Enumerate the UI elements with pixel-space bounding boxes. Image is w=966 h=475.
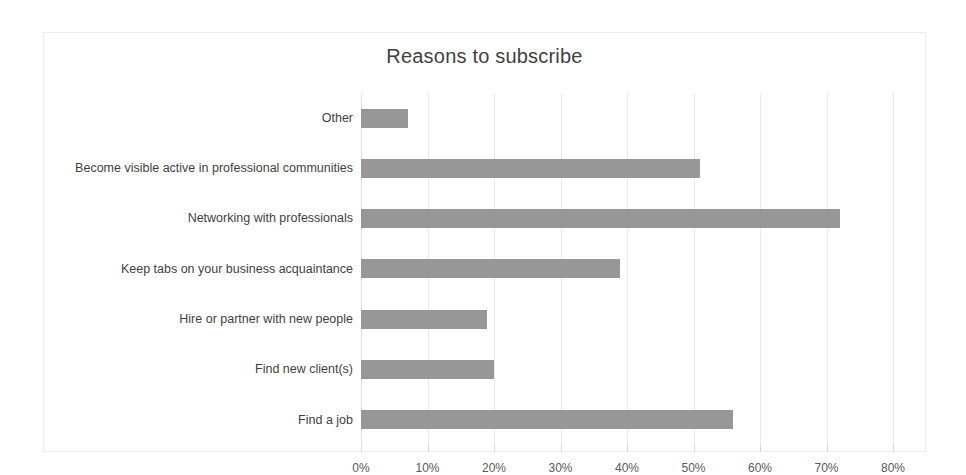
x-axis-tick-mark [494,445,495,452]
x-axis-tick-mark [561,445,562,452]
category-label: Networking with professionals [188,212,353,225]
chart-title: Reasons to subscribe [44,45,925,68]
bar [361,360,494,379]
bar [361,109,408,128]
category-label: Find a job [298,414,353,427]
x-axis-tick-mark [694,445,695,452]
bar [361,209,840,228]
x-axis-tick-mark [827,445,828,452]
x-axis-tick-label: 70% [814,461,838,475]
bar-row: Find a job [361,395,893,445]
gridline [893,93,894,445]
category-label: Become visible active in professional co… [75,162,353,175]
bar-row: Find new client(s) [361,344,893,394]
bar-row: Become visible active in professional co… [361,143,893,193]
x-axis-tick-label: 10% [415,461,439,475]
bar-row: Hire or partner with new people [361,294,893,344]
category-label: Find new client(s) [255,363,353,376]
category-label: Other [322,112,353,125]
x-axis-tick-label: 50% [681,461,705,475]
bar-row: Other [361,93,893,143]
bar [361,159,700,178]
plot-area: 0%10%20%30%40%50%60%70%80% OtherBecome v… [361,93,893,445]
bar-row: Networking with professionals [361,194,893,244]
bar [361,310,487,329]
category-label: Hire or partner with new people [179,313,353,326]
x-axis-tick-label: 40% [615,461,639,475]
x-axis-tick-mark [893,445,894,452]
x-axis-tick-label: 20% [482,461,506,475]
bar [361,410,733,429]
x-axis-tick-mark [428,445,429,452]
x-axis-tick-label: 0% [352,461,369,475]
x-axis-tick-mark [760,445,761,452]
x-axis-tick-mark [627,445,628,452]
bar-row: Keep tabs on your business acquaintance [361,244,893,294]
x-axis-tick-mark [361,445,362,452]
x-axis-tick-label: 80% [881,461,905,475]
bar [361,259,620,278]
x-axis-tick-label: 30% [548,461,572,475]
category-label: Keep tabs on your business acquaintance [121,263,353,276]
x-axis-tick-label: 60% [748,461,772,475]
chart-container: Reasons to subscribe 0%10%20%30%40%50%60… [43,32,926,452]
